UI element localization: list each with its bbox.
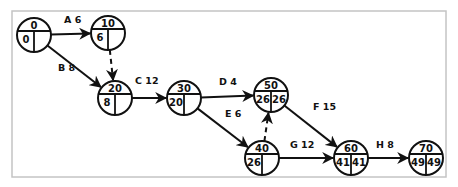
node-number: 10 [101, 18, 115, 29]
node-early-start: 26 [256, 94, 270, 105]
node-early-start: 20 [169, 97, 183, 108]
node-number: 0 [31, 20, 38, 31]
node-early-start: 26 [247, 157, 261, 168]
network-diagram: 0010620830205026264026604141704949 A 6B … [0, 0, 458, 187]
node-early-start: 8 [104, 97, 111, 108]
node-late-finish: 41 [352, 157, 366, 168]
activity-label-e: E 6 [225, 108, 242, 119]
node-40: 4026 [245, 141, 279, 175]
node-late-finish: 49 [427, 157, 441, 168]
node-70: 704949 [409, 141, 443, 175]
activity-label-c: C 12 [135, 75, 159, 86]
node-early-start: 41 [336, 157, 350, 168]
node-late-finish: 26 [272, 94, 286, 105]
node-20: 208 [98, 81, 132, 115]
node-number: 70 [419, 143, 433, 154]
node-50: 502626 [254, 78, 288, 112]
node-0: 00 [17, 18, 51, 52]
node-30: 3020 [167, 81, 201, 115]
activity-label-h: H 8 [376, 139, 394, 150]
node-number: 60 [344, 143, 358, 154]
activity-label-d: D 4 [219, 76, 237, 87]
node-60: 604141 [334, 141, 368, 175]
activity-label-g: G 12 [290, 139, 314, 150]
diagram-frame [12, 11, 446, 177]
activity-label-b: B 8 [58, 62, 76, 73]
node-early-start: 0 [23, 34, 30, 45]
activity-arrow-a [51, 33, 90, 34]
node-early-start: 49 [411, 157, 425, 168]
node-early-start: 6 [97, 32, 104, 43]
activity-label-a: A 6 [64, 14, 82, 25]
node-number: 30 [177, 83, 191, 94]
node-10: 106 [91, 16, 125, 50]
node-number: 40 [255, 143, 269, 154]
activity-label-f: F 15 [313, 101, 336, 112]
node-number: 50 [264, 80, 278, 91]
node-number: 20 [108, 83, 122, 94]
